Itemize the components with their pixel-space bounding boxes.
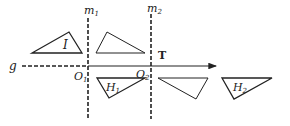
label-m2: m2 <box>147 2 162 16</box>
reflection-translation-diagram: m1 m2 g O1 O2 T I H1 H2 <box>0 0 290 126</box>
triangle-reflection-of-i <box>96 32 145 53</box>
label-o2: O2 <box>136 68 150 82</box>
label-h2: H2 <box>232 81 248 95</box>
label-m1: m1 <box>84 4 99 18</box>
label-i: I <box>62 38 68 52</box>
triangle-h1 <box>97 78 145 98</box>
label-o1: O1 <box>74 70 88 84</box>
label-h1: H1 <box>105 81 120 95</box>
label-t: T <box>158 49 167 62</box>
triangle-reflection-of-h1 <box>158 78 208 99</box>
triangle-i <box>32 32 82 53</box>
label-g: g <box>9 59 17 73</box>
